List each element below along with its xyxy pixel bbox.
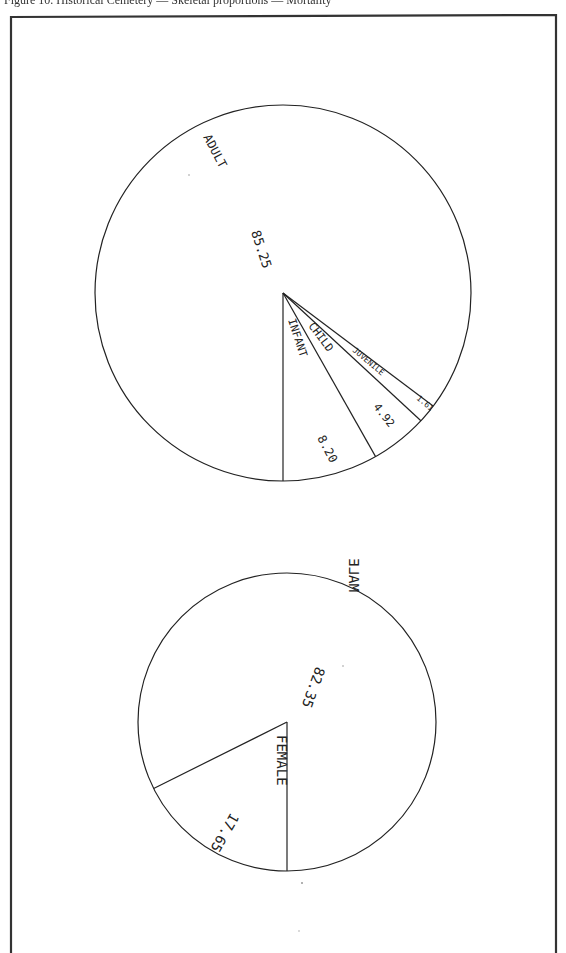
- female-value: 17.65: [207, 811, 242, 856]
- adult-value: 85.25: [248, 228, 274, 270]
- female-label: FEMALE: [274, 735, 290, 786]
- child-value: 4.92: [371, 401, 398, 430]
- juvenile-value: 1.61: [415, 394, 436, 413]
- infant-value: 8.20: [314, 433, 340, 465]
- juvenile-slice-boundary: [283, 293, 421, 421]
- infant-label: INFANT: [285, 317, 310, 359]
- figure-frame: [11, 15, 556, 953]
- figure-canvas: ADULT 85.25 INFANT 8.20 CHILD 4.92 JUVEN…: [0, 0, 566, 953]
- adult-label: ADULT: [200, 132, 229, 170]
- age-pie-chart: ADULT 85.25 INFANT 8.20 CHILD 4.92 JUVEN…: [95, 105, 471, 481]
- scan-specks: [188, 174, 344, 932]
- male-value: 82.35: [299, 665, 328, 710]
- sex-pie-chart: MALE 82.35 FEMALE 17.65: [138, 558, 436, 871]
- female-slice-boundary: [154, 722, 287, 789]
- male-label: MALE: [346, 558, 362, 592]
